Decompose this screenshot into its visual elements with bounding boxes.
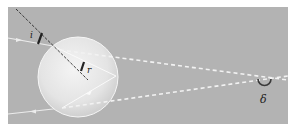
label-refraction-angle: r (87, 65, 92, 75)
label-deviation-angle: δ (260, 93, 267, 106)
droplet-refraction-diagram: i r δ (0, 0, 292, 131)
label-incidence-angle: i (30, 30, 33, 40)
